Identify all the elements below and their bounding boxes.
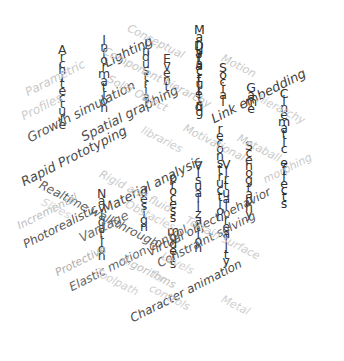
cloud-word-libraries: libraries [140, 125, 185, 155]
cloud-word-letter: s [281, 198, 288, 205]
cloud-word-letter: l [221, 96, 224, 103]
cloud-word-social: Social [219, 62, 227, 103]
word-cloud: ArchitectureInformationIndustrialNavigat… [0, 0, 344, 361]
cloud-word-metal: Metal [220, 294, 252, 318]
